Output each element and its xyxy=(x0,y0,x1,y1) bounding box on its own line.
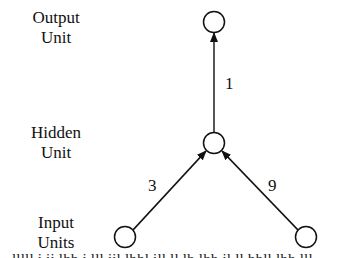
output-label-line1: Output xyxy=(11,8,101,28)
hidden-node xyxy=(204,133,225,154)
output-unit-label: Output Unit xyxy=(11,8,101,48)
weight-input-right: 9 xyxy=(268,176,277,196)
edge-input-right-hidden xyxy=(222,151,298,230)
hidden-label-line2: Unit xyxy=(11,143,101,163)
input-label-line1: Input xyxy=(11,213,101,233)
weight-input-left: 3 xyxy=(148,176,157,196)
hidden-unit-label: Hidden Unit xyxy=(11,123,101,163)
output-node xyxy=(204,12,225,33)
input-node-right xyxy=(296,227,317,248)
weight-hidden-output: 1 xyxy=(225,74,234,94)
cropped-caption: lllll i ii lhh i lll iil lhhl ill ll lh … xyxy=(0,253,340,258)
input-units-label: Input Units xyxy=(11,213,101,253)
output-label-line2: Unit xyxy=(11,28,101,48)
input-node-left xyxy=(115,227,136,248)
edge-input-left-hidden xyxy=(133,151,206,230)
input-label-line2: Units xyxy=(11,233,101,253)
hidden-label-line1: Hidden xyxy=(11,123,101,143)
